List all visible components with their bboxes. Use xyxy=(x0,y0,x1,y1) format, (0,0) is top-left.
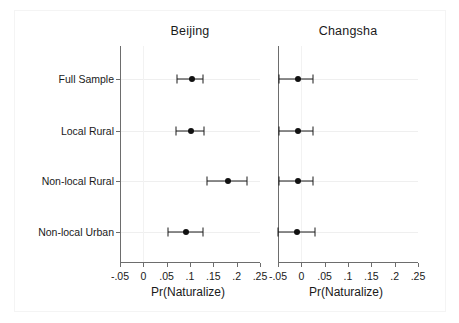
panel-changsha: -.050.05.1.15.2.25 xyxy=(278,46,418,262)
x-axis-tick xyxy=(120,263,121,267)
confidence-interval-cap-upper xyxy=(247,177,248,186)
estimate-point-marker xyxy=(295,76,301,82)
x-axis-tick-label: .05 xyxy=(317,270,332,282)
estimate-point-marker xyxy=(295,178,301,184)
x-axis-tick xyxy=(237,263,238,267)
x-axis-tick-label: .25 xyxy=(253,270,268,282)
x-axis-title-beijing: Pr(Naturalize) xyxy=(118,285,258,299)
zero-reference-gridline xyxy=(143,46,144,262)
confidence-interval-cap-upper xyxy=(203,75,204,84)
estimate-point-marker xyxy=(294,229,300,235)
x-axis-tick xyxy=(167,263,168,267)
confidence-interval-cap-lower xyxy=(278,177,279,186)
x-axis-tick xyxy=(418,263,419,267)
x-axis-tick-label: -.05 xyxy=(269,270,287,282)
x-axis-tick xyxy=(301,263,302,267)
confidence-interval-cap-lower xyxy=(278,75,279,84)
confidence-interval-cap-upper xyxy=(315,228,316,237)
confidence-interval-cap-lower xyxy=(278,127,279,136)
confidence-interval-cap-upper xyxy=(203,228,204,237)
x-axis-tick-label: .25 xyxy=(411,270,426,282)
confidence-interval-cap-lower xyxy=(168,228,169,237)
x-axis-tick xyxy=(371,263,372,267)
panel-title-changsha: Changsha xyxy=(278,24,418,38)
estimate-point-marker xyxy=(225,178,231,184)
x-axis-tick-label: 0 xyxy=(140,270,146,282)
confidence-interval-cap-upper xyxy=(313,75,314,84)
x-axis-tick xyxy=(395,263,396,267)
plot-region-changsha: -.050.05.1.15.2.25 xyxy=(278,46,418,262)
estimate-point-marker xyxy=(183,229,189,235)
x-axis-tick-label: -.05 xyxy=(111,270,129,282)
x-axis-tick-label: .1 xyxy=(186,270,195,282)
x-axis-tick xyxy=(213,263,214,267)
estimate-point-marker xyxy=(295,128,301,134)
y-axis-label-full-sample: Full Sample xyxy=(59,73,114,85)
confidence-interval-cap-lower xyxy=(176,127,177,136)
y-axis-label-local-rural: Local Rural xyxy=(61,125,114,137)
confidence-interval-cap-upper xyxy=(313,177,314,186)
coefficient-plot-figure: Beijing Changsha Full SampleLocal RuralN… xyxy=(0,0,459,323)
x-axis-tick xyxy=(278,263,279,267)
confidence-interval-cap-lower xyxy=(176,75,177,84)
x-axis-tick-label: 0 xyxy=(298,270,304,282)
y-axis-label-non-local-rural: Non-local Rural xyxy=(42,175,114,187)
x-axis-tick-label: .15 xyxy=(364,270,379,282)
confidence-interval-cap-lower xyxy=(278,228,279,237)
x-axis-title-changsha: Pr(Naturalize) xyxy=(276,285,416,299)
panel-title-beijing: Beijing xyxy=(120,24,260,38)
x-axis-tick-label: .1 xyxy=(344,270,353,282)
panel-beijing: -.050.05.1.15.2.25 xyxy=(120,46,260,262)
x-axis-tick xyxy=(143,263,144,267)
plot-region-beijing: -.050.05.1.15.2.25 xyxy=(120,46,260,262)
y-axis-label-non-local-urban: Non-local Urban xyxy=(38,226,114,238)
x-axis-tick-label: .2 xyxy=(390,270,399,282)
confidence-interval-cap-upper xyxy=(313,127,314,136)
x-axis-tick xyxy=(325,263,326,267)
x-axis-tick xyxy=(260,263,261,267)
x-axis-tick-label: .05 xyxy=(159,270,174,282)
x-axis-tick-label: .15 xyxy=(206,270,221,282)
x-axis-tick xyxy=(190,263,191,267)
x-axis-tick-label: .2 xyxy=(232,270,241,282)
confidence-interval-cap-lower xyxy=(207,177,208,186)
confidence-interval-cap-upper xyxy=(204,127,205,136)
estimate-point-marker xyxy=(188,128,194,134)
y-axis-line xyxy=(120,46,121,262)
estimate-point-marker xyxy=(189,76,195,82)
x-axis-tick xyxy=(348,263,349,267)
